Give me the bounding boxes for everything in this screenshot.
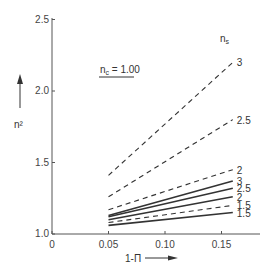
x-tick-label: 0.15 (212, 239, 232, 250)
x-tick-label: 0.05 (99, 239, 119, 250)
series-line (109, 197, 233, 220)
series-labels: 32.5232.521.51.5 (237, 57, 251, 218)
chart: 1.01.52.02.5 00.050.100.15 n² 1-Π nc = 1… (0, 0, 268, 277)
series-label: 3 (237, 57, 243, 68)
y-tick-label: 1.0 (35, 228, 49, 239)
annotation-nc: nc = 1.00 (99, 64, 140, 77)
series-label: 2.5 (237, 115, 251, 126)
series-lines (109, 62, 233, 225)
y-tick-label: 2.0 (35, 85, 49, 96)
series-line (109, 188, 233, 217)
x-tick-label: 0 (49, 239, 55, 250)
legend-title: ns (220, 33, 230, 45)
y-tick-label: 1.5 (35, 157, 49, 168)
series-label: 1.5 (237, 208, 251, 219)
y-axis-title: n² (14, 74, 24, 130)
series-line (109, 213, 233, 226)
series-line (109, 120, 233, 197)
x-tick-label: 0.10 (155, 239, 175, 250)
svg-text:1-Π: 1-Π (125, 253, 141, 264)
x-axis-title: 1-Π (125, 253, 178, 264)
arrow-right-icon (168, 256, 178, 261)
svg-text:n²: n² (14, 119, 24, 130)
svg-text:ns: ns (220, 33, 230, 45)
series-line (109, 181, 233, 215)
arrow-up-icon (17, 74, 23, 84)
series-line (109, 170, 233, 210)
y-tick-label: 2.5 (35, 14, 49, 25)
series-label: 2 (237, 165, 243, 176)
svg-text:nc = 1.00: nc = 1.00 (100, 64, 140, 76)
